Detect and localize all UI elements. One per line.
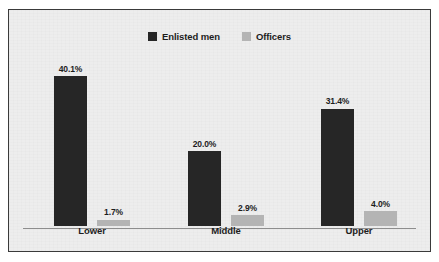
bar-value-upper-officers: 4.0% xyxy=(371,200,390,209)
bar-chart-figure: Enlisted men Officers 40.1% 1.7% xyxy=(0,0,439,262)
bar-middle-officers[interactable]: 2.9% xyxy=(231,36,264,226)
bar-rect-lower-enlisted-men xyxy=(54,76,87,226)
chart-plot-frame: Enlisted men Officers 40.1% 1.7% xyxy=(8,9,431,252)
bar-value-upper-enlisted-men: 31.4% xyxy=(326,97,350,106)
bar-rect-middle-enlisted-men xyxy=(188,151,221,226)
legend-label-enlisted-men: Enlisted men xyxy=(162,32,220,42)
x-tick-label-middle: Middle xyxy=(166,226,286,236)
bar-value-middle-officers: 2.9% xyxy=(238,204,257,213)
x-tick-label-upper: Upper xyxy=(299,226,419,236)
bar-group-upper-bars: 31.4% 4.0% xyxy=(299,36,419,226)
legend-swatch-enlisted-men xyxy=(148,32,157,41)
legend-label-officers: Officers xyxy=(256,32,291,42)
bar-middle-enlisted-men[interactable]: 20.0% xyxy=(188,36,221,226)
bar-value-middle-enlisted-men: 20.0% xyxy=(193,140,217,149)
bar-lower-enlisted-men[interactable]: 40.1% xyxy=(54,36,87,226)
bar-group-middle-bars: 20.0% 2.9% xyxy=(166,36,286,226)
bar-group-middle: 20.0% 2.9% Middle xyxy=(166,26,286,226)
bar-upper-officers[interactable]: 4.0% xyxy=(364,36,397,226)
legend-item-officers: Officers xyxy=(242,32,291,42)
bar-lower-officers[interactable]: 1.7% xyxy=(97,36,130,226)
bar-rect-upper-officers xyxy=(364,211,397,226)
bar-group-lower: 40.1% 1.7% Lower xyxy=(32,26,152,226)
chart-legend: Enlisted men Officers xyxy=(9,32,430,42)
x-tick-label-lower: Lower xyxy=(32,226,152,236)
bar-upper-enlisted-men[interactable]: 31.4% xyxy=(321,36,354,226)
bar-value-lower-officers: 1.7% xyxy=(104,208,123,217)
bar-group-upper: 31.4% 4.0% Upper xyxy=(299,26,419,226)
bar-group-lower-bars: 40.1% 1.7% xyxy=(32,36,152,226)
legend-item-enlisted-men: Enlisted men xyxy=(148,32,220,42)
bar-rect-upper-enlisted-men xyxy=(321,109,354,226)
bar-value-lower-enlisted-men: 40.1% xyxy=(59,65,83,74)
chart-plot-area: 40.1% 1.7% Lower 20.0% xyxy=(9,10,430,251)
legend-swatch-officers xyxy=(242,32,251,41)
